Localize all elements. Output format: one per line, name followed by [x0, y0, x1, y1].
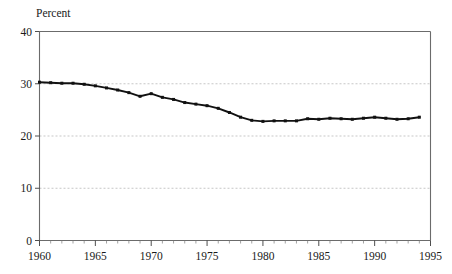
data-point-marker — [407, 117, 410, 120]
y-axis-tick-labels: 010203040 — [21, 26, 33, 247]
y-axis-caption: Percent — [36, 7, 71, 19]
data-point-marker — [239, 116, 242, 119]
data-point-marker — [183, 101, 186, 104]
data-point-marker — [340, 117, 343, 120]
x-tick-label: 1980 — [251, 250, 274, 262]
data-point-marker — [418, 116, 421, 119]
data-point-marker — [206, 104, 209, 107]
x-tick-label: 1960 — [28, 250, 51, 262]
data-point-marker — [72, 82, 75, 85]
series-line — [40, 82, 420, 121]
data-point-marker — [60, 82, 63, 85]
data-point-marker — [250, 119, 253, 122]
data-point-marker — [38, 81, 41, 84]
data-point-marker — [228, 111, 231, 114]
data-point-marker — [295, 119, 298, 122]
data-point-marker — [273, 119, 276, 122]
x-tick-label: 1985 — [307, 250, 330, 262]
data-point-marker — [94, 84, 97, 87]
data-point-marker — [127, 91, 130, 94]
x-tick-label: 1965 — [84, 250, 107, 262]
x-tick-label: 1975 — [196, 250, 219, 262]
data-point-marker — [306, 117, 309, 120]
data-point-marker — [217, 107, 220, 110]
data-point-marker — [373, 116, 376, 119]
data-point-marker — [384, 117, 387, 120]
data-point-marker — [116, 89, 119, 92]
chart-container: 19601965197019751980198519901995 0102030… — [0, 0, 452, 274]
data-point-marker — [150, 92, 153, 95]
x-tick-label: 1995 — [419, 250, 442, 262]
data-point-marker — [139, 95, 142, 98]
y-tick-label: 40 — [21, 26, 33, 38]
gridlines — [40, 84, 431, 189]
y-axis-ticks — [35, 32, 40, 241]
x-tick-label: 1990 — [363, 250, 386, 262]
data-point-marker — [351, 118, 354, 121]
data-point-marker — [83, 83, 86, 86]
y-tick-label: 20 — [21, 130, 33, 142]
data-point-marker — [362, 117, 365, 120]
x-axis-tick-labels: 19601965197019751980198519901995 — [28, 250, 442, 262]
x-axis-ticks — [40, 241, 431, 247]
data-point-marker — [261, 120, 264, 123]
y-tick-label: 10 — [21, 182, 33, 194]
data-point-marker — [317, 118, 320, 121]
data-point-marker — [284, 119, 287, 122]
data-point-marker — [395, 118, 398, 121]
y-tick-label: 30 — [21, 78, 33, 90]
line-chart: 19601965197019751980198519901995 0102030… — [0, 0, 452, 274]
data-point-marker — [105, 86, 108, 89]
data-point-marker — [172, 98, 175, 101]
x-tick-label: 1970 — [140, 250, 163, 262]
data-point-marker — [194, 103, 197, 106]
data-series — [38, 81, 421, 123]
y-tick-label: 0 — [26, 235, 32, 247]
data-point-marker — [49, 81, 52, 84]
data-point-marker — [328, 117, 331, 120]
data-point-marker — [161, 96, 164, 99]
